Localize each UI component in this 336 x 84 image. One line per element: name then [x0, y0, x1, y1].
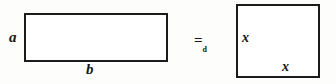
rectangle-side-label-b: b — [86, 62, 94, 77]
geometry-figure: a b =d x x — [0, 0, 336, 84]
square-side-label-x-bottom: x — [282, 60, 289, 74]
rectangle-shape — [24, 13, 168, 62]
rectangle-side-label-a: a — [9, 30, 17, 45]
equivalence-relation-symbol: =d — [194, 33, 207, 51]
square-side-label-x-left: x — [242, 31, 249, 45]
relation-subscript: d — [203, 45, 207, 54]
equals-operator: = — [194, 32, 203, 48]
